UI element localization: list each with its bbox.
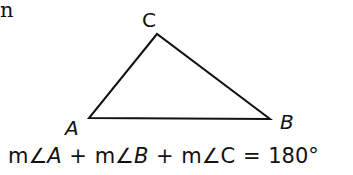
angle-vertex-b: B xyxy=(134,144,148,168)
triangle-outline xyxy=(89,34,270,119)
measure-symbol: m xyxy=(8,144,28,168)
equals-sign: = xyxy=(235,144,268,168)
angle-icon: ∠ xyxy=(115,144,134,168)
angle-vertex-a: A xyxy=(47,144,61,168)
angle-sum-equation: m∠A + m∠B + m∠C = 180° xyxy=(8,146,319,167)
angle-icon: ∠ xyxy=(202,144,221,168)
plus-sign: + xyxy=(148,144,181,168)
angle-icon: ∠ xyxy=(28,144,47,168)
measure-symbol: m xyxy=(95,144,115,168)
measure-symbol: m xyxy=(181,144,201,168)
vertex-label-b: B xyxy=(280,112,294,132)
angle-sum-value: 180° xyxy=(268,144,319,168)
vertex-label-c: C xyxy=(142,10,156,30)
angle-vertex-c: C xyxy=(221,144,236,168)
plus-sign: + xyxy=(62,144,95,168)
vertex-label-a: A xyxy=(65,118,79,138)
